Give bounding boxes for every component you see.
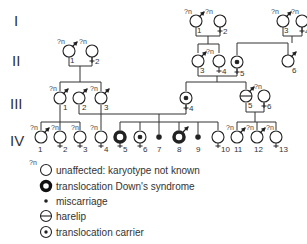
person-iv-4	[95, 131, 107, 143]
svg-text:9: 9	[196, 145, 201, 154]
person-i-1	[190, 12, 204, 27]
legend-item-miscarriage: miscarriage	[44, 196, 108, 207]
svg-text:?n: ?n	[71, 124, 79, 131]
person-iii-4	[180, 92, 192, 104]
legend: ?n unaffected: karyotype not known trans…	[29, 159, 200, 238]
thick-ring-icon	[42, 182, 51, 191]
svg-text:?n: ?n	[90, 85, 98, 92]
person-ii-2	[86, 45, 98, 57]
svg-text:2: 2	[223, 27, 228, 36]
generation-label-iii: III	[10, 95, 23, 112]
karyotype-unknown-markers: ?n ?n ?n ?n ?n ?n ?n ?n ?n ?n ?n ?n ?n ?…	[30, 8, 299, 131]
svg-text:?n: ?n	[205, 8, 213, 15]
person-i-4	[296, 15, 307, 27]
person-iv-5	[115, 132, 125, 142]
person-iv-3	[74, 131, 86, 143]
svg-text:11: 11	[234, 145, 243, 154]
person-iii-5	[240, 87, 254, 102]
legend-item-unaffected: unaffected: karyotype not known	[41, 165, 200, 177]
person-iv-10	[212, 131, 224, 143]
svg-text:8: 8	[177, 145, 182, 154]
svg-text:5: 5	[248, 101, 253, 110]
svg-text:6: 6	[267, 102, 272, 111]
person-iv-7	[157, 135, 161, 139]
svg-text:4: 4	[305, 27, 307, 36]
svg-text:2: 2	[82, 103, 87, 112]
person-iii-6	[258, 90, 270, 102]
svg-text:harelip: harelip	[56, 211, 86, 222]
svg-text:4: 4	[189, 104, 194, 113]
svg-text:?n: ?n	[271, 8, 279, 15]
svg-text:1: 1	[38, 145, 43, 154]
svg-text:?n: ?n	[291, 8, 299, 15]
person-ii-1	[63, 42, 77, 57]
legend-item-downs: translocation Down's syndrome	[42, 181, 196, 192]
pedigree-figure: I II III IV	[0, 0, 307, 244]
svg-text:6: 6	[292, 66, 297, 75]
person-iv-6	[134, 131, 146, 143]
pedigree-chart: I II III IV	[0, 0, 307, 244]
svg-text:?n: ?n	[246, 124, 254, 131]
svg-text:2: 2	[95, 57, 100, 66]
svg-text:3: 3	[83, 145, 88, 154]
svg-text:1: 1	[70, 56, 75, 65]
person-iv-8	[174, 127, 188, 142]
svg-text:?n: ?n	[79, 38, 87, 45]
svg-text:2: 2	[63, 145, 68, 154]
svg-text:miscarriage: miscarriage	[56, 196, 108, 207]
svg-text:5: 5	[240, 69, 245, 78]
svg-text:?n: ?n	[90, 124, 98, 131]
svg-text:3: 3	[104, 103, 109, 112]
svg-text:?n: ?n	[226, 124, 234, 131]
legend-item-harelip: harelip	[41, 211, 87, 223]
person-iv-2	[54, 131, 66, 143]
svg-text:4: 4	[222, 67, 227, 76]
svg-text:7: 7	[157, 145, 162, 154]
person-iv-9	[196, 135, 200, 139]
svg-text:10: 10	[221, 145, 230, 154]
person-ii-3	[192, 52, 206, 67]
person-ii-4	[213, 55, 225, 67]
svg-text:?n: ?n	[49, 85, 57, 92]
svg-text:3: 3	[284, 26, 289, 35]
dot-icon	[44, 199, 48, 203]
legend-qn-marker: ?n	[29, 159, 37, 166]
svg-text:?n: ?n	[184, 8, 192, 15]
person-i-3	[277, 12, 291, 27]
person-ii-5	[231, 56, 243, 68]
person-iv-13	[270, 131, 282, 143]
svg-text:unaffected: karyotype not know: unaffected: karyotype not known	[56, 165, 200, 176]
svg-text:translocation Down's syndrome: translocation Down's syndrome	[56, 181, 195, 192]
svg-text:4: 4	[104, 145, 109, 154]
legend-item-carrier: translocation carrier	[41, 227, 145, 239]
person-ii-6	[282, 52, 296, 67]
svg-text:translocation carrier: translocation carrier	[56, 227, 144, 238]
svg-text:1: 1	[63, 103, 68, 112]
svg-text:12: 12	[254, 145, 263, 154]
svg-text:?n: ?n	[51, 124, 59, 131]
svg-text:1: 1	[197, 26, 202, 35]
generation-label-i: I	[14, 12, 18, 29]
svg-text:?n: ?n	[254, 83, 262, 90]
svg-text:13: 13	[279, 145, 288, 154]
svg-text:3: 3	[200, 66, 205, 75]
person-iii-2	[73, 89, 87, 104]
generation-label-iv: IV	[10, 132, 24, 149]
person-i-2	[214, 15, 226, 27]
svg-text:?n: ?n	[57, 38, 65, 45]
svg-text:?n: ?n	[206, 48, 214, 55]
svg-text:6: 6	[143, 145, 148, 154]
generation-label-ii: II	[12, 52, 20, 69]
svg-text:5: 5	[123, 145, 128, 154]
svg-text:?n: ?n	[30, 124, 38, 131]
unaffected-circle-icon	[41, 165, 52, 176]
svg-text:?n: ?n	[266, 124, 274, 131]
